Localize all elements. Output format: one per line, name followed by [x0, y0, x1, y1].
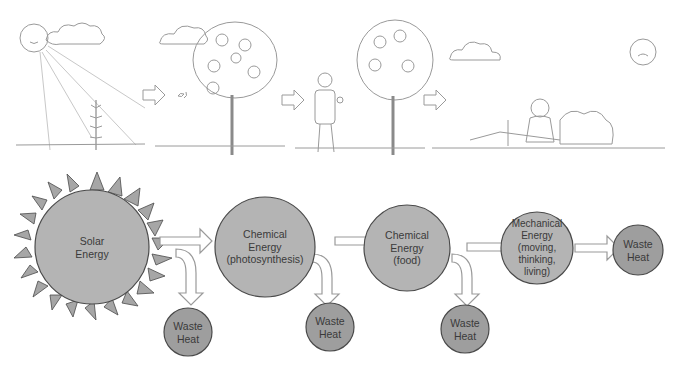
label-line: Heat	[450, 329, 479, 342]
label-line: (food)	[385, 254, 429, 267]
mechanical-energy-label: Mechanical Energy (moving, thinking, liv…	[512, 218, 563, 278]
label-line: Heat	[173, 332, 202, 345]
label-line: Energy	[512, 230, 563, 242]
arrow-solar-to-chem1	[160, 229, 212, 253]
arrow-mech-to-waste	[575, 236, 619, 260]
label-line: Waste	[315, 315, 344, 328]
label-line: thinking,	[512, 254, 563, 266]
label-line: Chemical	[226, 228, 303, 241]
arrow-chem2-to-waste3	[452, 254, 479, 306]
label-line: Waste	[173, 320, 202, 333]
label-line: (moving,	[512, 242, 563, 254]
label-line: Waste	[450, 317, 479, 330]
chemical-food-label: Chemical Energy (food)	[385, 229, 429, 267]
label-line: Heat	[623, 250, 652, 263]
waste-heat-label-2: Waste Heat	[315, 315, 344, 340]
label-line: Solar	[75, 235, 108, 248]
final-waste-heat-label: Waste Heat	[623, 238, 652, 263]
energy-flow-diagram: Solar Energy Chemical Energy (photosynth…	[0, 0, 684, 377]
waste-heat-label-3: Waste Heat	[450, 317, 479, 342]
label-line: Energy	[226, 241, 303, 254]
label-line: living)	[512, 266, 563, 278]
label-line: Waste	[623, 238, 652, 251]
label-line: Mechanical	[512, 218, 563, 230]
label-line: Chemical	[385, 229, 429, 242]
waste-heat-label-1: Waste Heat	[173, 320, 202, 345]
chemical-photosynthesis-label: Chemical Energy (photosynthesis)	[226, 228, 303, 266]
label-line: Heat	[315, 327, 344, 340]
label-line: Energy	[385, 242, 429, 255]
arrow-chem1-to-waste2	[312, 254, 339, 306]
solar-energy-label: Solar Energy	[75, 235, 108, 260]
label-line: Energy	[75, 247, 108, 260]
arrow-solar-to-waste1	[176, 249, 203, 305]
label-line: (photosynthesis)	[226, 253, 303, 266]
